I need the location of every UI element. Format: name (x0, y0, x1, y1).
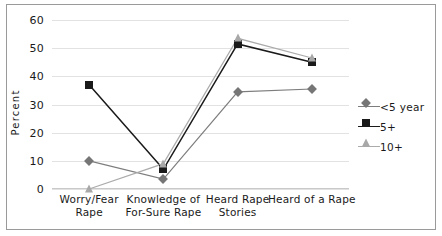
x-axis-tick-label: Heard of a Rape (268, 193, 356, 206)
x-axis-tick-labels: Worry/FearRapeKnowledge ofFor-Sure RapeH… (52, 193, 349, 233)
legend-swatch (358, 100, 380, 114)
gridline (52, 189, 349, 190)
x-axis-tick-label-line: Stories (206, 206, 270, 219)
data-point-marker (85, 185, 93, 193)
x-axis-tick-label-line: Heard Rape (206, 193, 270, 206)
legend-label: <5 year (380, 101, 424, 113)
series-lines (52, 20, 349, 189)
x-axis-tick-label: Knowledge ofFor-Sure Rape (125, 193, 201, 219)
legend-item[interactable]: 5+ (358, 117, 438, 137)
legend-item[interactable]: 10+ (358, 137, 438, 157)
legend-label: 10+ (380, 141, 403, 153)
y-axis-tick-label: 60 (29, 14, 44, 27)
y-axis-tick-label: 10 (29, 154, 44, 167)
series-line-0 (89, 89, 312, 179)
x-axis-tick-label-line: Knowledge of (125, 193, 201, 206)
x-axis-tick-label-line: Worry/Fear (60, 193, 119, 206)
y-axis-tick-label: 30 (29, 98, 44, 111)
x-axis-tick-label: Heard RapeStories (206, 193, 270, 219)
data-point-marker (308, 54, 316, 62)
x-axis-tick-label-line: Rape (60, 206, 119, 219)
y-axis-tick-label: 40 (29, 70, 44, 83)
legend-swatch (358, 140, 380, 154)
plot-area (52, 20, 349, 189)
data-point-marker (85, 81, 93, 89)
x-axis-tick-label: Worry/FearRape (60, 193, 119, 219)
chart-legend: <5 year5+10+ (358, 97, 438, 157)
y-axis-tick-label: 50 (29, 42, 44, 55)
x-axis-tick-label-line: Heard of a Rape (268, 193, 356, 206)
data-point-marker (234, 34, 242, 42)
x-axis-tick-label-line: For-Sure Rape (125, 206, 201, 219)
series-line-1 (89, 44, 312, 169)
y-axis-tick-label: 20 (29, 126, 44, 139)
legend-label: 5+ (380, 121, 396, 133)
chart-container: Percent 0102030405060 Worry/FearRapeKnow… (0, 0, 442, 236)
legend-line (358, 106, 380, 107)
y-axis-tick-labels: 0102030405060 (0, 20, 48, 189)
square-icon (362, 119, 370, 127)
triangle-icon (362, 139, 370, 147)
legend-swatch (358, 120, 380, 134)
series-line-2 (89, 38, 312, 189)
legend-item[interactable]: <5 year (358, 97, 438, 117)
data-point-marker (159, 159, 167, 167)
y-axis-tick-label: 0 (37, 183, 44, 196)
